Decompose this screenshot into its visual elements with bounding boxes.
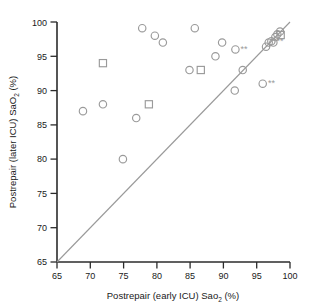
data-point-circle xyxy=(259,80,266,87)
data-point-circle xyxy=(212,53,219,60)
data-point-annotation: ** xyxy=(268,78,276,88)
y-tick-label: 75 xyxy=(37,189,47,199)
data-point-circle xyxy=(218,39,225,46)
data-point-circle xyxy=(186,66,193,73)
x-tick-label: 65 xyxy=(52,271,62,281)
y-tick-label: 95 xyxy=(37,52,47,62)
y-tick-label: 100 xyxy=(32,18,47,28)
x-tick-label: 85 xyxy=(185,271,195,281)
x-tick-label: 70 xyxy=(85,271,95,281)
x-tick-label: 75 xyxy=(119,271,129,281)
y-axis-title-pre: Postrepair (later ICU) SaO xyxy=(7,97,18,208)
plot-area: 65 70 75 80 85 90 95 100 65 70 75 80 85 xyxy=(0,0,316,308)
x-axis-title-post: (%) xyxy=(222,290,239,301)
x-axis-tick-labels: 65 70 75 80 85 90 95 100 xyxy=(52,271,298,281)
data-point-circle xyxy=(99,101,106,108)
x-tick-label: 90 xyxy=(218,271,228,281)
x-tick-label: 95 xyxy=(252,271,262,281)
x-axis-title-pre: Postrepair (early ICU) Sao xyxy=(107,290,218,301)
data-point-square xyxy=(99,60,106,67)
data-point-annotation: ** xyxy=(241,44,249,54)
data-point-circle xyxy=(119,155,126,162)
svg-text:Postrepair (later ICU) SaO2 (%: Postrepair (later ICU) SaO2 (%) xyxy=(7,76,20,208)
x-axis-title: Postrepair (early ICU) Sao2 (%) xyxy=(107,290,239,303)
identity-line xyxy=(57,22,290,262)
data-point-circle xyxy=(231,87,238,94)
data-markers-layer: ****** xyxy=(79,24,284,162)
data-point-circle xyxy=(139,24,146,31)
y-axis-tick-labels: 65 70 75 80 85 90 95 100 xyxy=(32,18,47,268)
y-tick-label: 90 xyxy=(37,86,47,96)
x-axis-ticks xyxy=(57,262,290,269)
y-tick-label: 85 xyxy=(37,120,47,130)
y-tick-label: 70 xyxy=(37,223,47,233)
y-axis-title-post: (%) xyxy=(7,76,18,93)
y-axis-ticks xyxy=(51,22,58,262)
data-point-circle xyxy=(79,107,86,114)
data-point-circle xyxy=(232,46,239,53)
y-tick-label: 65 xyxy=(37,257,47,267)
y-tick-label: 80 xyxy=(37,154,47,164)
data-point-circle xyxy=(133,114,140,121)
data-point-circle xyxy=(151,32,158,39)
x-tick-label: 100 xyxy=(282,271,297,281)
data-point-square xyxy=(145,101,152,108)
x-tick-label: 80 xyxy=(152,271,162,281)
y-axis-title: Postrepair (later ICU) SaO2 (%) xyxy=(7,76,20,208)
data-point-circle xyxy=(159,39,166,46)
data-point-circle xyxy=(191,24,198,31)
svg-text:Postrepair (early ICU) Sao2 (%: Postrepair (early ICU) Sao2 (%) xyxy=(107,290,239,303)
data-point-square xyxy=(197,66,204,73)
scatter-plot-figure: 65 70 75 80 85 90 95 100 65 70 75 80 85 xyxy=(0,0,316,308)
